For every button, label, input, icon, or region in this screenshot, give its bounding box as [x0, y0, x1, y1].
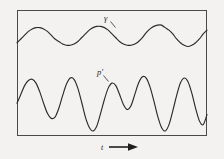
label-t-axis: t: [101, 143, 104, 152]
plot-frame: [18, 11, 207, 136]
figure-canvas: γ p′ t: [0, 0, 224, 159]
waveform-figure: γ p′ t: [0, 0, 224, 159]
label-p-prime: p′: [96, 67, 103, 77]
right-arrow-icon: [109, 143, 138, 151]
